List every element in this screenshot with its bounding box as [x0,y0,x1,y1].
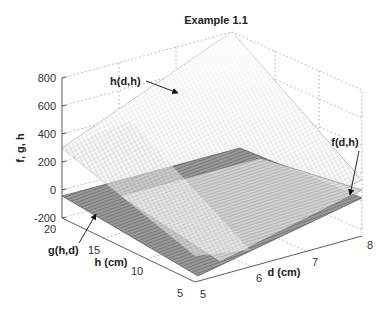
annotation-h: h(d,h) [110,75,141,87]
d-tick: 5 [200,288,206,300]
h-tick: 5 [177,287,183,299]
h-axis-label: h (cm) [95,256,128,268]
h-tick: 15 [88,244,100,256]
d-tick: 7 [312,256,318,268]
surface-chart: Example 1.1 [0,0,390,317]
z-tick-labels: 800 600 400 200 0 -200 [34,72,56,224]
z-tick: 0 [50,184,56,196]
annotation-g: g(h,d) [48,244,79,256]
annotation-f: f(d,h) [331,136,359,148]
h-tick: 20 [44,223,56,235]
d-axis-label: d (cm) [268,266,301,278]
d-tick: 6 [256,272,262,284]
chart-title: Example 1.1 [184,14,248,26]
z-axis-label: f, g, h [14,133,26,163]
h-tick: 10 [131,265,143,277]
z-tick: 400 [38,128,56,140]
z-tick: 800 [38,72,56,84]
z-tick: 600 [38,100,56,112]
d-tick: 8 [367,239,373,251]
z-tick: 200 [38,156,56,168]
